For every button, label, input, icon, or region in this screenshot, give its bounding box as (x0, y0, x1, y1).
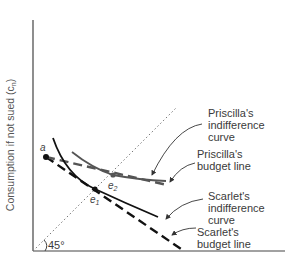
point-a-label: a (40, 142, 46, 153)
angle-label: 45° (48, 239, 65, 251)
priscilla-indifference-arrow (152, 124, 202, 175)
angle-arc (44, 240, 47, 251)
point-e1-label: e1 (90, 194, 100, 206)
point-e2-label: e2 (108, 180, 118, 192)
45-degree-line (33, 107, 177, 251)
scarlet-budget-label: Scarlet's budget line (197, 226, 251, 250)
priscilla-indifference-curve (72, 152, 166, 181)
scarlet-indifference-curve (53, 138, 158, 217)
scarlet-budget-arrow (172, 228, 196, 235)
scarlet-indifference-arrow (166, 199, 203, 219)
point-a (43, 154, 49, 160)
priscilla-indifference-label: Priscilla's indifference curve (208, 107, 268, 143)
point-e2 (110, 172, 115, 177)
scarlet-indifference-label: Scarlet's indifference curve (208, 190, 268, 226)
indifference-curve-diagram: Consumption if not sued (cn) 45° a e1 e2… (0, 0, 304, 271)
scarlet-budget-line (46, 157, 184, 251)
point-e1 (92, 186, 97, 191)
priscilla-budget-label: Priscilla's budget line (197, 148, 251, 172)
priscilla-budget-arrow (170, 163, 195, 182)
y-axis-label: Consumption if not sued (cn) (4, 79, 17, 211)
